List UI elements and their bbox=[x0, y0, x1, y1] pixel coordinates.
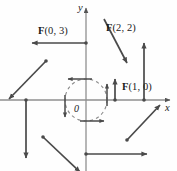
vector-upper-left-diagonal-base bbox=[44, 59, 48, 63]
label-f-1-0-arg: (1, 0) bbox=[129, 81, 152, 92]
vector-lower-left-diagonal bbox=[43, 137, 80, 171]
vector-lower-right-diagonal-base bbox=[125, 138, 129, 142]
vector-lower-left-diagonal-base bbox=[41, 135, 45, 139]
y-axis-label: y bbox=[78, 3, 83, 14]
vector-field-figure: F(0, 3) F(2, 2) F(1, 0) y x 0 bbox=[0, 0, 177, 171]
vector-f-1-0-base bbox=[113, 98, 117, 102]
label-f-2-2-arg: (2, 2) bbox=[113, 22, 136, 33]
x-axis-label: x bbox=[165, 103, 170, 114]
vector-upper-left-diagonal bbox=[9, 61, 46, 99]
label-f-0-3-arg: (0, 3) bbox=[45, 25, 68, 36]
field-vectors bbox=[9, 19, 160, 171]
vector-f-0-3-base bbox=[84, 41, 88, 45]
origin-label: 0 bbox=[74, 104, 79, 114]
vector-right-up-base bbox=[142, 98, 146, 102]
vector-lower-right-diagonal bbox=[127, 105, 160, 140]
label-f-1-0: F(1, 0) bbox=[122, 82, 152, 93]
label-f-0-3: F(0, 3) bbox=[38, 26, 68, 37]
label-f-2-2: F(2, 2) bbox=[106, 23, 136, 34]
vector-left-down-base bbox=[24, 98, 28, 102]
vector-bottom-right-base bbox=[84, 152, 88, 156]
